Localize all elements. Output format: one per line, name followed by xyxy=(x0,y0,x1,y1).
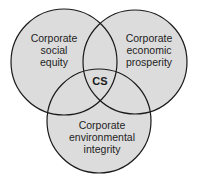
label-line: equity xyxy=(31,56,78,68)
label-line: Corporate xyxy=(31,32,78,44)
label-social-equity: Corporate social equity xyxy=(31,32,78,68)
label-line: social xyxy=(31,44,78,56)
label-line: Corporate xyxy=(126,32,173,44)
label-line: Corporate xyxy=(69,119,135,131)
label-line: prosperity xyxy=(126,56,173,68)
intersection-label: CS xyxy=(92,75,107,87)
label-line: environmental xyxy=(69,131,135,143)
label-line: integrity xyxy=(69,143,135,155)
label-line: economic xyxy=(126,44,173,56)
label-environmental-integrity: Corporate environmental integrity xyxy=(69,119,135,155)
label-economic-prosperity: Corporate economic prosperity xyxy=(126,32,173,68)
